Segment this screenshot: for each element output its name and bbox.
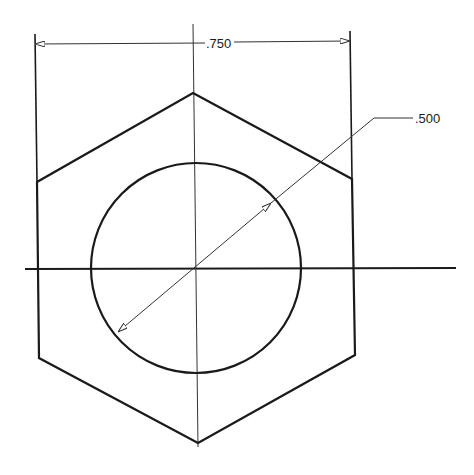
horizontal-centerline [25, 268, 456, 269]
dimension-line-width-right [234, 41, 350, 42]
diameter-leader [271, 118, 413, 203]
vertical-centerline [193, 24, 198, 447]
width-dimension-label: .750 [206, 36, 231, 51]
extension-line-left [35, 34, 37, 182]
dimension-line-width-left [35, 43, 205, 44]
nut-drawing: .750 .500 [0, 0, 474, 475]
diameter-dimension-label: .500 [415, 111, 440, 126]
extension-line-right [350, 31, 352, 179]
